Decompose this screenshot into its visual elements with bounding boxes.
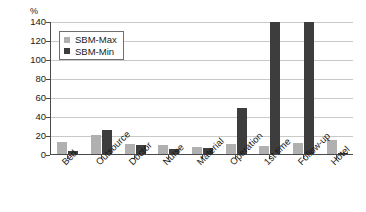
x-axis-category-labels: BedOutsourceDoctorNurseMaterialOperation… [50,160,366,212]
bar-sbm-min [270,22,280,154]
y-axis-tick-label: 20 [16,131,46,141]
bar-group [186,22,220,154]
legend-item: SBM-Min [64,47,117,57]
bar-group [152,22,186,154]
bar-group [287,22,321,154]
chart-legend: SBM-MaxSBM-Min [59,31,124,60]
bar-group [219,22,253,154]
legend-item: SBM-Max [64,35,117,45]
bar-chart-figure: % 020406080100120140 BedOutsourceDoctorN… [0,0,366,212]
y-axis-unit-label: % [30,6,38,16]
y-axis-tick-label: 120 [16,36,46,46]
bar-sbm-min [304,22,314,154]
y-axis-tick-labels: 020406080100120140 [12,22,46,155]
y-axis-tick-label: 100 [16,55,46,65]
y-axis-tick-label: 140 [16,17,46,27]
legend-label: SBM-Max [75,35,117,45]
y-axis-tick-label: 0 [16,150,46,160]
y-axis-tick-label: 60 [16,93,46,103]
legend-swatch-icon [64,37,70,43]
y-axis-tick-label: 80 [16,74,46,84]
legend-swatch-icon [64,48,70,54]
legend-label: SBM-Min [75,47,114,57]
y-axis-tick-label: 40 [16,112,46,122]
